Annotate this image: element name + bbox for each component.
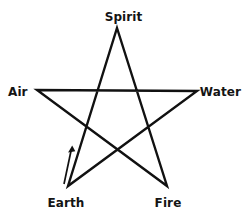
pentagram-figure — [0, 0, 247, 217]
vertex-label-water: Water — [200, 85, 241, 99]
diagram-background — [0, 0, 247, 217]
pentagram-diagram: Spirit Water Fire Earth Air — [0, 0, 247, 217]
vertex-label-spirit: Spirit — [0, 10, 247, 24]
vertex-label-earth: Earth — [38, 196, 94, 210]
vertex-label-fire: Fire — [142, 196, 194, 210]
vertex-label-air: Air — [8, 85, 28, 99]
